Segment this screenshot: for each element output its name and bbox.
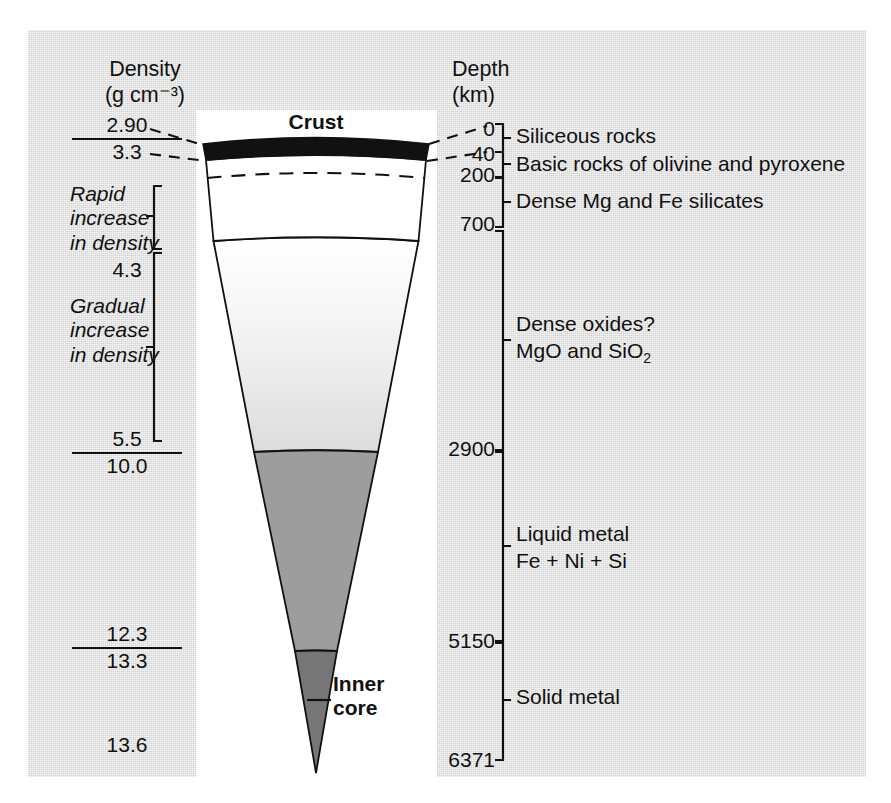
density-bracket-gradual <box>146 253 162 441</box>
leader-line-density-crust <box>150 129 203 145</box>
layer-lower-mantle <box>214 237 419 452</box>
leader-line-depth-surface <box>429 126 487 144</box>
depth-bracket-upper-mantle <box>495 178 511 227</box>
density-bracket-rapid <box>146 186 162 249</box>
layer-inner-core <box>295 651 337 774</box>
depth-bracket-outer-core <box>495 452 511 641</box>
layer-outer-core <box>254 450 378 651</box>
earth-wedge-artwork <box>0 0 891 803</box>
depth-bracket-lower-mantle <box>495 231 511 450</box>
depth-bracket-crust <box>495 124 511 152</box>
depth-bracket-inner-core <box>495 643 511 760</box>
leader-line-density-moho <box>150 154 207 161</box>
leader-line-depth-moho <box>427 152 487 161</box>
depth-bracket-lithosphere <box>495 152 511 177</box>
earth-structure-figure: Density(g cm⁻³) 2.90 3.3 Rapid increase … <box>0 0 891 803</box>
layer-upper-mantle <box>206 155 426 241</box>
